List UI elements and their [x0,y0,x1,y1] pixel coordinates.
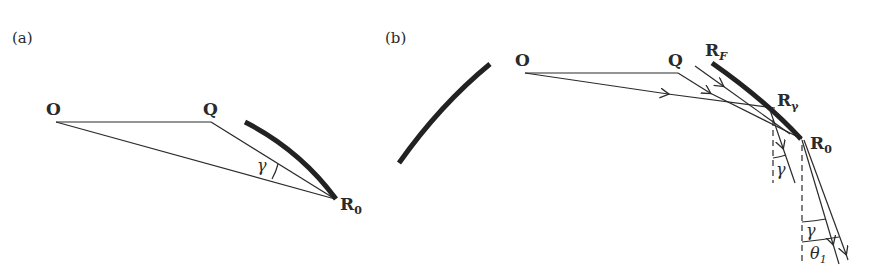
point-q-label: Q [203,99,218,119]
panel-b-label: (b) [385,29,406,47]
reflected-ray-r0-a [833,244,839,264]
ray-o-arrow [525,73,668,94]
point-o-label: O [515,50,530,70]
reflected-ray-r0-b [846,254,848,260]
outer-mirror-arc [399,64,490,163]
optics-diagram: (a) γ O Q R0 (b) [0,0,895,274]
line-q-r0 [211,122,335,199]
point-rf-label: RF [705,40,728,63]
point-q-label: Q [668,50,683,70]
point-ry-label: Rγ [777,90,799,113]
gamma-label-ry: γ [776,160,786,179]
point-r0-label: R0 [340,194,362,217]
line-o-r0 [56,122,335,199]
theta1-label: θ1 [810,244,827,266]
gamma-angle-arc [272,164,278,179]
gamma-label-r0: γ [806,221,816,240]
gamma-label: γ [257,156,267,175]
point-r0-label: R0 [810,133,832,156]
panel-a: (a) γ O Q R0 [12,29,362,217]
point-o-label: O [46,99,61,119]
ray-q-arrow [678,73,710,93]
panel-b: (b) γ γ θ1 O Q [385,29,848,266]
gamma-arc-ry [773,155,786,158]
panel-a-label: (a) [12,29,33,47]
